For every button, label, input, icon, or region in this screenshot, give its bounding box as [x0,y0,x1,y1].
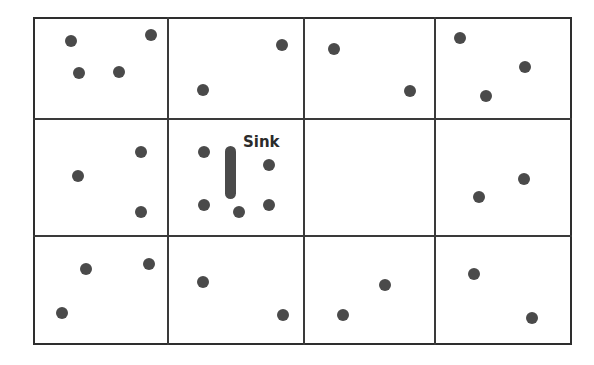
grid-line-horizontal-1 [33,118,572,120]
data-point [113,66,125,78]
data-point [198,146,210,158]
grid-line-vertical-2 [303,17,305,345]
diagram-canvas: Sink [0,0,594,365]
data-point [468,268,480,280]
data-point [135,206,147,218]
sink-label: Sink [243,133,280,151]
data-point [277,309,289,321]
data-point [65,35,77,47]
data-point [233,206,245,218]
grid-line-vertical-1 [167,17,169,345]
data-point [328,43,340,55]
data-point [56,307,68,319]
data-point [263,199,275,211]
data-point [197,276,209,288]
data-point [143,258,155,270]
data-point [379,279,391,291]
data-point [454,32,466,44]
data-point [404,85,416,97]
grid-line-vertical-3 [434,17,436,345]
data-point [263,159,275,171]
data-point [519,61,531,73]
grid-line-horizontal-2 [33,235,572,237]
data-point [198,199,210,211]
data-point [197,84,209,96]
data-point [135,146,147,158]
data-point [73,67,85,79]
data-point [145,29,157,41]
data-point [480,90,492,102]
sink-marker [225,146,236,199]
data-point [337,309,349,321]
data-point [276,39,288,51]
data-point [518,173,530,185]
data-point [72,170,84,182]
data-point [473,191,485,203]
data-point [526,312,538,324]
data-point [80,263,92,275]
